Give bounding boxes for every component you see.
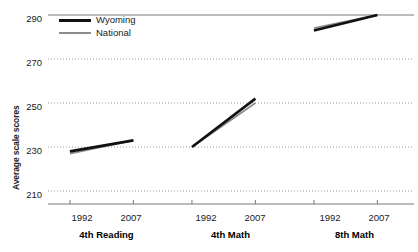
series-line-wyoming-8th-math: [314, 15, 377, 30]
series-line-wyoming-4th-math: [192, 99, 255, 147]
panel-title-4th-reading: 4th Reading: [62, 229, 151, 240]
x-tick-label-p2-2007: 2007: [235, 212, 275, 223]
x-tick-label-p1-1992: 1992: [62, 212, 102, 223]
gridlines: [48, 15, 414, 191]
x-tick-label-p3-2007: 2007: [359, 212, 399, 223]
chart-container: Average scale scores 290 270 250 230 210…: [0, 0, 418, 252]
series-line-wyoming-4th-reading: [70, 140, 133, 151]
panel-title-8th-math: 8th Math: [310, 229, 399, 240]
x-tick-label-p2-1992: 1992: [186, 212, 226, 223]
x-tick-label-p3-1992: 1992: [310, 212, 350, 223]
panel-title-4th-math: 4th Math: [186, 229, 275, 240]
series-lines: [70, 15, 377, 154]
x-axis: [48, 200, 414, 204]
x-tick-label-p1-2007: 2007: [111, 212, 151, 223]
